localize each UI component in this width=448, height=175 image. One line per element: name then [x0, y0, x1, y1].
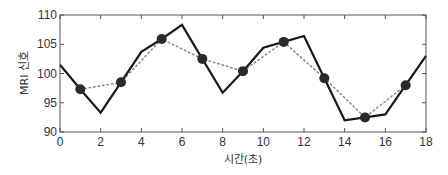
y-tick-label: 90 [44, 125, 58, 139]
sample-marker [116, 77, 126, 87]
sample-marker [157, 34, 167, 44]
y-tick-label: 105 [37, 37, 57, 51]
y-axis-label: MRI 신호 [18, 51, 31, 95]
x-tick-label: 6 [179, 135, 186, 149]
sample-marker [75, 84, 85, 94]
mri-signal-chart: 0246810121416189095100105110 시간(초) MRI 신… [0, 0, 448, 175]
x-tick-label: 2 [97, 135, 104, 149]
y-tick-label: 110 [38, 8, 57, 22]
x-axis-label: 시간(초) [224, 153, 263, 166]
sample-marker [197, 54, 207, 64]
x-tick-label: 0 [57, 135, 64, 149]
sample-marker [360, 112, 370, 122]
sample-marker [319, 73, 329, 83]
x-tick-label: 12 [297, 135, 311, 149]
x-tick-label: 10 [257, 135, 271, 149]
x-tick-label: 16 [379, 135, 393, 149]
sample-marker [401, 80, 411, 90]
y-tick-label: 95 [44, 96, 58, 110]
x-tick-label: 14 [338, 135, 352, 149]
x-tick-label: 8 [219, 135, 226, 149]
sample-marker [238, 66, 248, 76]
x-tick-label: 18 [419, 135, 433, 149]
x-tick-label: 4 [138, 135, 145, 149]
sample-marker [279, 37, 289, 47]
sampled-dotted-line [80, 39, 405, 117]
series-layer [60, 25, 426, 122]
y-tick-label: 100 [37, 67, 57, 81]
